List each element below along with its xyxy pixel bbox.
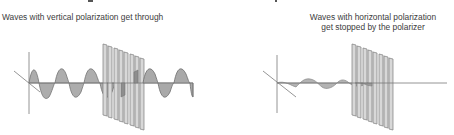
wave-through-polarizer (134, 70, 138, 83)
polarizer-grid-right (352, 44, 393, 130)
panel-vertical-polarization (14, 44, 193, 130)
polarization-diagram (0, 0, 454, 135)
wave-through-polarizer (121, 83, 125, 97)
vertical-wave-transmitted (143, 69, 193, 97)
panel-horizontal-polarization (263, 44, 447, 130)
